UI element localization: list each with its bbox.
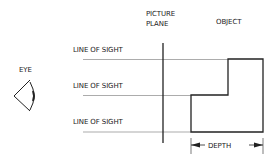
- arrow-left-icon: [191, 143, 200, 148]
- picture-plane-label-line1: PICTURE: [146, 10, 175, 18]
- orthographic-projection-diagram: EYE LINE OF SIGHT LINE OF SIGHT LINE OF …: [0, 0, 279, 167]
- line-of-sight-label-1: LINE OF SIGHT: [73, 46, 124, 54]
- arrow-right-icon: [254, 143, 263, 148]
- line-of-sight-label-3: LINE OF SIGHT: [73, 118, 124, 126]
- object-profile: [191, 59, 263, 132]
- object-label: OBJECT: [216, 18, 242, 26]
- depth-label: DEPTH: [208, 142, 231, 150]
- eye-icon: [14, 80, 34, 111]
- line-of-sight-label-2: LINE OF SIGHT: [73, 82, 124, 90]
- picture-plane-label-line2: PLANE: [146, 20, 168, 28]
- eye-label: EYE: [19, 66, 32, 74]
